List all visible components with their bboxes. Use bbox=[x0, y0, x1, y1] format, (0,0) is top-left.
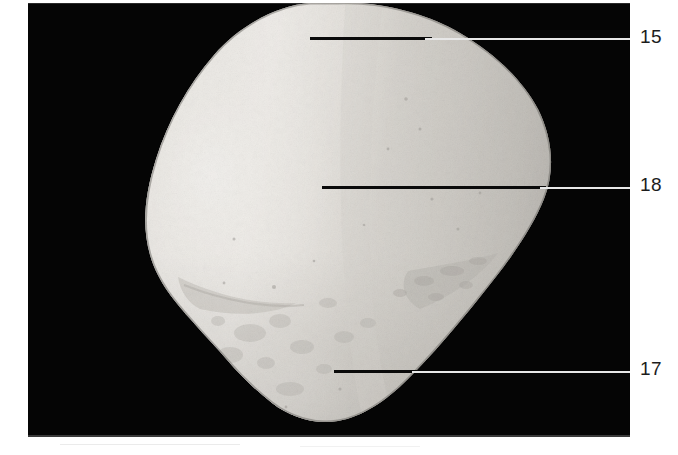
leader-15-light-segment bbox=[425, 38, 630, 40]
callout-label-17: 17 bbox=[640, 359, 662, 378]
anatomy-figure: 15 18 17 bbox=[0, 0, 678, 455]
leader-17-dark-segment bbox=[334, 370, 418, 373]
leader-18-dark-segment bbox=[322, 186, 546, 189]
leader-15-dark-segment bbox=[310, 37, 432, 40]
leader-18-light-segment bbox=[540, 187, 630, 189]
callout-label-18: 18 bbox=[640, 175, 662, 194]
callout-label-15: 15 bbox=[640, 27, 662, 46]
leader-line-17 bbox=[0, 0, 678, 3]
paper-speckle bbox=[300, 446, 420, 447]
paper-speckle bbox=[60, 444, 240, 445]
leader-17-light-segment bbox=[412, 371, 630, 373]
